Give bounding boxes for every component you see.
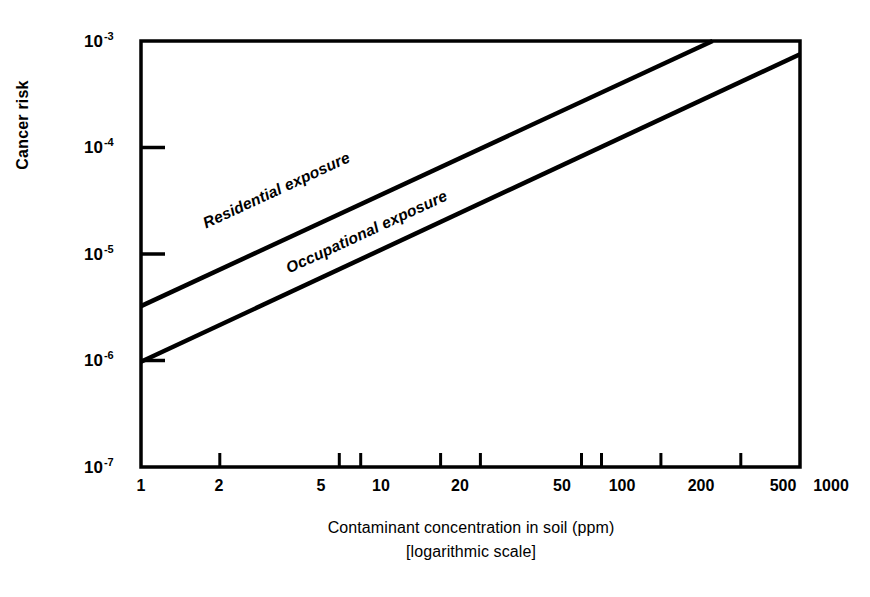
x-tick-label-20: 20 [440, 477, 480, 495]
x-tick-label-100: 100 [598, 477, 646, 495]
series-line-residential-exposure [141, 41, 713, 306]
x-axis-subtitle: [logarithmic scale] [141, 540, 801, 564]
x-axis-ticks [220, 453, 741, 467]
x-tick-label-2: 2 [199, 477, 239, 495]
x-tick-label-10: 10 [361, 477, 401, 495]
plot-area [0, 0, 870, 597]
y-tick-exponent-1e-6: -6 [104, 349, 114, 361]
x-axis-title-block: Contaminant concentration in soil (ppm) … [141, 516, 801, 564]
y-tick-exponent-1e-4: -4 [104, 136, 114, 148]
plot-frame [141, 41, 800, 467]
x-tick-label-50: 50 [542, 477, 582, 495]
x-axis-title: Contaminant concentration in soil (ppm) [141, 516, 801, 540]
y-tick-label-1e-3: 10-3 [84, 30, 114, 52]
y-tick-exponent-1e-7: -7 [104, 456, 114, 468]
y-tick-exponent-1e-3: -3 [104, 30, 114, 42]
x-tick-label-1: 1 [121, 477, 161, 495]
x-tick-label-5: 5 [301, 477, 341, 495]
y-tick-label-1e-4: 10-4 [84, 136, 114, 158]
y-tick-exponent-1e-5: -5 [104, 243, 114, 255]
y-axis-ticks [141, 148, 165, 361]
y-tick-label-1e-7: 10-7 [84, 456, 114, 478]
y-tick-label-1e-5: 10-5 [84, 243, 114, 265]
x-tick-label-500: 500 [759, 477, 807, 495]
x-tick-label-200: 200 [677, 477, 725, 495]
y-tick-label-1e-6: 10-6 [84, 349, 114, 371]
cancer-risk-chart-figure: Cancer risk 10-3 10-4 10-5 10 [0, 0, 870, 597]
x-tick-label-1000: 1000 [803, 477, 859, 495]
